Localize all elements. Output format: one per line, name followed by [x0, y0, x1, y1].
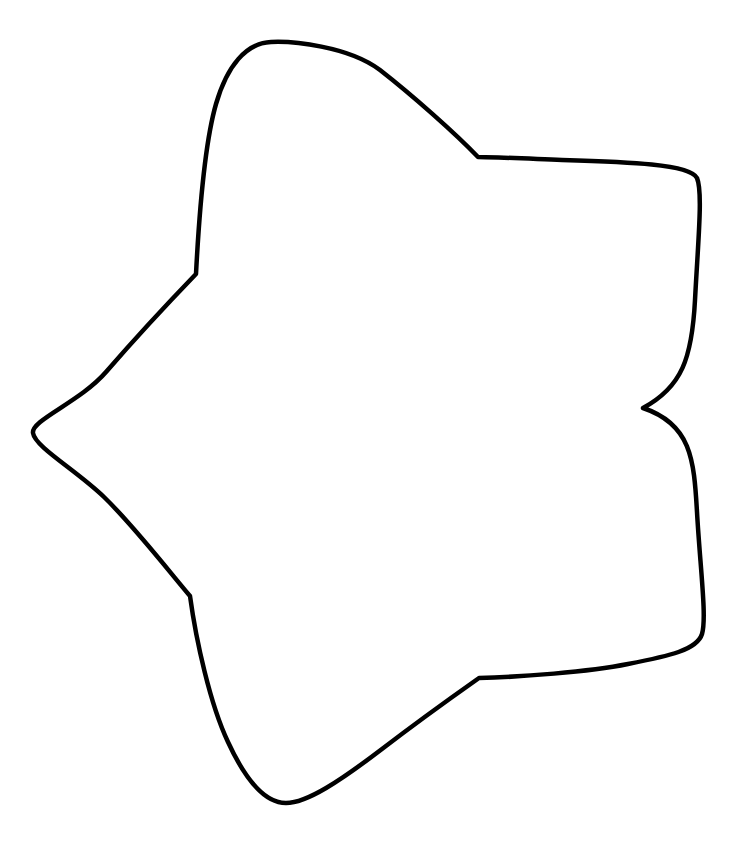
star-figure	[0, 0, 744, 849]
page-canvas: see this throughout the page 11	[0, 0, 744, 849]
star-outline-icon	[0, 0, 744, 849]
